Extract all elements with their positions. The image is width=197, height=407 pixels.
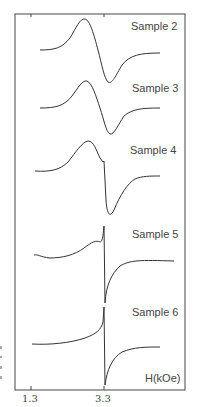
label-sample-6: Sample 6 [132, 306, 178, 318]
cropped-axis-marks [0, 346, 2, 379]
label-sample-3: Sample 3 [132, 82, 178, 94]
epr-spectra-chart: Sample 2 Sample 3 Sample 4 Sample 5 Samp… [0, 0, 197, 407]
x-tick-label: 1.3 [22, 393, 38, 404]
x-axis-label: H(kOe) [145, 372, 180, 384]
x-tick-label: 3.3 [95, 393, 111, 404]
label-sample-2: Sample 2 [131, 20, 177, 32]
label-sample-5: Sample 5 [132, 228, 178, 240]
curve-sample-6 [32, 307, 160, 385]
plot-frame [15, 14, 185, 390]
label-sample-4: Sample 4 [130, 144, 176, 156]
